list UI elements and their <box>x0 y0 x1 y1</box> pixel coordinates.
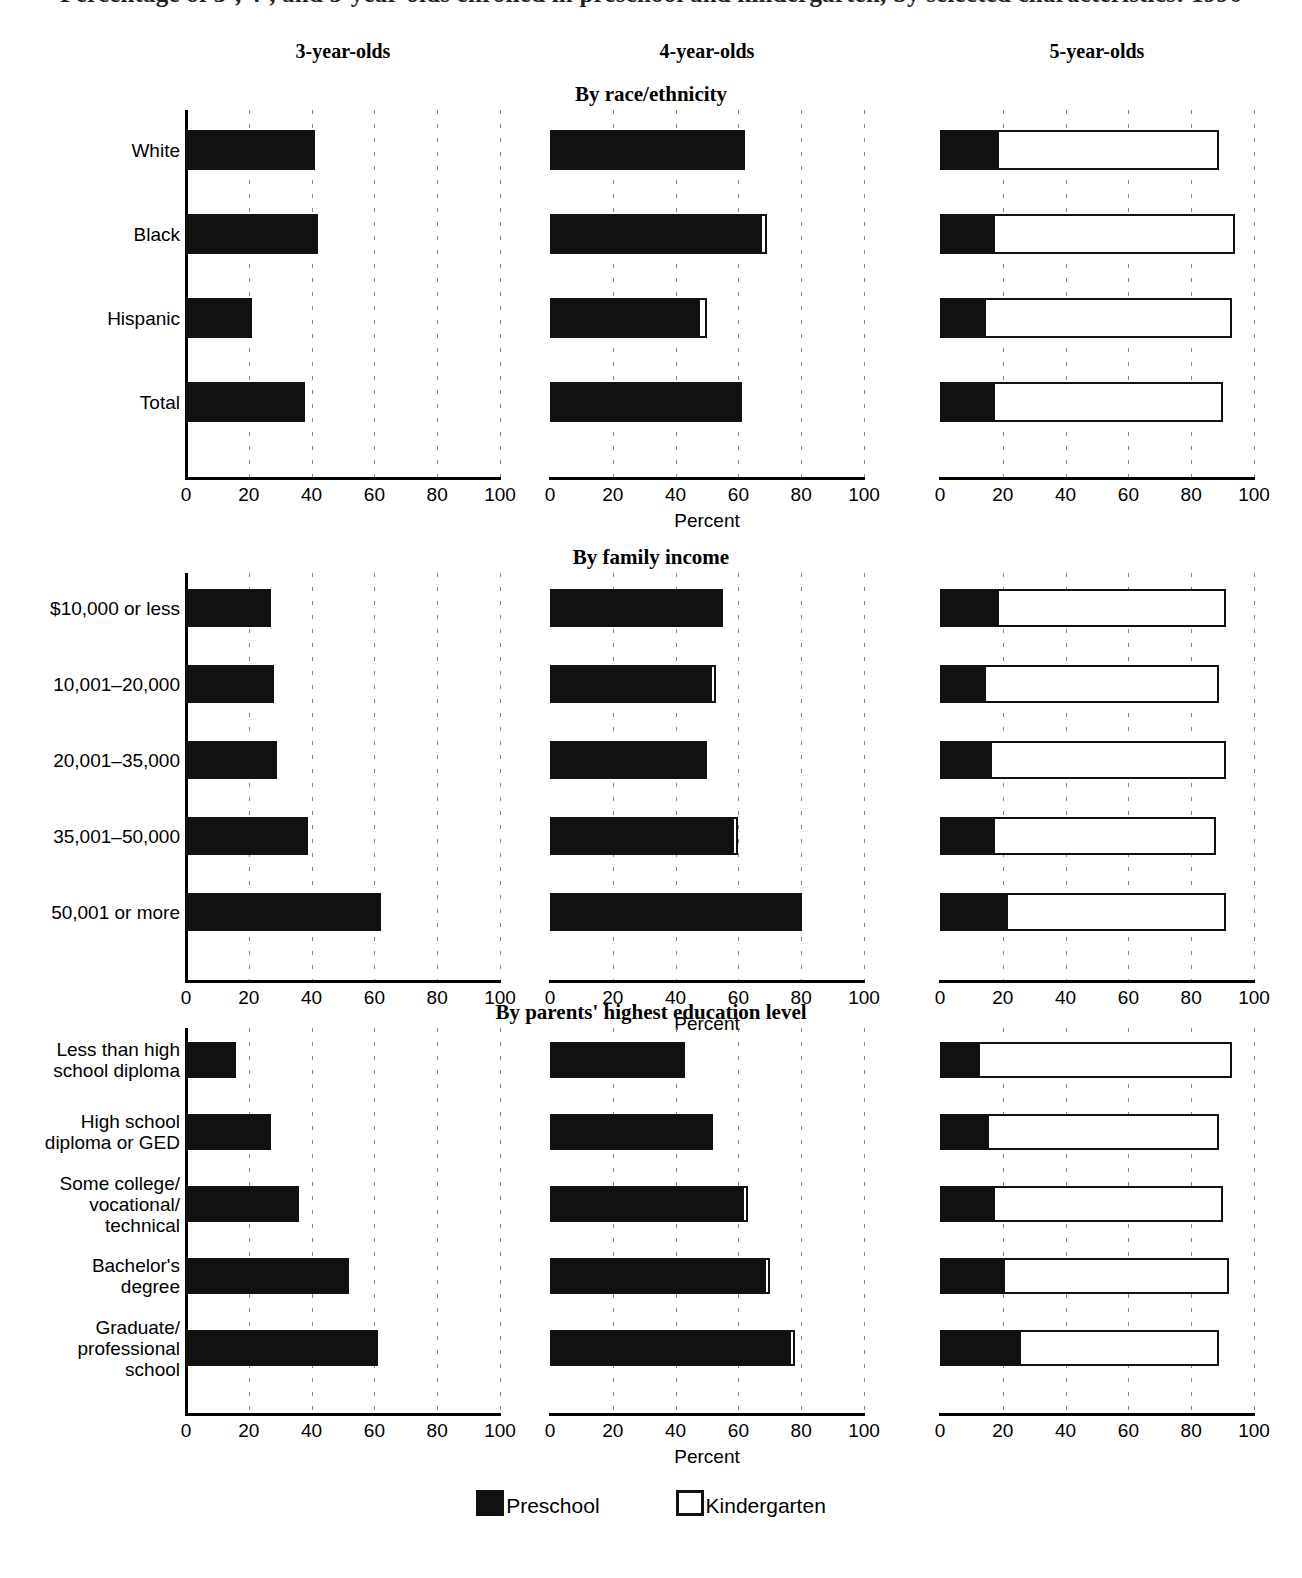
bar-segment-preschool <box>550 665 710 703</box>
bar-segment-preschool <box>940 1114 987 1150</box>
bar-segment-preschool <box>940 817 993 855</box>
x-axis-line <box>549 980 865 983</box>
x-axis-line <box>549 477 865 480</box>
x-axis-tick-label: 80 <box>791 484 812 506</box>
bar-segment-kindergarten <box>984 665 1220 703</box>
panel-4-year-olds: 020406080100Percent <box>550 573 864 983</box>
bar-segment-kindergarten <box>798 893 802 931</box>
bar-row <box>550 1186 864 1222</box>
bar-row <box>940 130 1254 170</box>
bar-segment-kindergarten <box>1019 1330 1220 1366</box>
x-axis-tick-labels: 020406080100 <box>940 484 1254 508</box>
category-label: High school diploma or GED <box>0 1111 180 1153</box>
column-header-5-year-olds: 5-year-olds <box>940 40 1254 63</box>
bar-segment-preschool <box>940 1186 993 1222</box>
bar-row <box>550 665 864 703</box>
x-axis-tick-label: 40 <box>1055 484 1076 506</box>
bar-row <box>940 1042 1254 1078</box>
bar-segment-kindergarten <box>987 1114 1219 1150</box>
x-axis-tick-label: 20 <box>992 484 1013 506</box>
x-axis-line <box>939 980 1255 983</box>
bar-segment-preschool <box>186 214 318 254</box>
bar-segment-preschool <box>186 1186 299 1222</box>
category-label: Hispanic <box>0 308 180 329</box>
x-axis-tick-label: 100 <box>484 1420 516 1442</box>
bar-row <box>186 589 500 627</box>
bar-segment-preschool <box>550 298 698 338</box>
bar-segment-kindergarten <box>789 1330 795 1366</box>
bar-segment-preschool <box>186 1114 271 1150</box>
bar-segment-preschool <box>940 1042 978 1078</box>
plot-area: 020406080100 <box>186 110 500 480</box>
bar-row <box>550 817 864 855</box>
gridline <box>1254 573 1255 983</box>
bar-row <box>940 665 1254 703</box>
gridline <box>1254 110 1255 480</box>
bar-segment-preschool <box>940 1258 1003 1294</box>
bar-segment-preschool <box>186 741 277 779</box>
plot-area: 020406080100Percent <box>550 1028 864 1416</box>
plot-area: 020406080100Percent <box>550 110 864 480</box>
bar-segment-preschool <box>550 1114 713 1150</box>
x-axis-line <box>185 1413 501 1416</box>
category-label: Some college/ vocational/ technical <box>0 1173 180 1236</box>
bar-segment-preschool <box>940 1330 1019 1366</box>
x-axis-tick-labels: 020406080100 <box>940 1420 1254 1444</box>
bar-row <box>940 1186 1254 1222</box>
x-axis-tick-labels: 020406080100 <box>186 1420 500 1444</box>
x-axis-title: Percent <box>550 1446 864 1468</box>
panel-3-year-olds: 020406080100 <box>186 110 500 480</box>
panel-4-year-olds: 020406080100Percent <box>550 110 864 480</box>
bar-row <box>186 741 500 779</box>
bar-row <box>550 741 864 779</box>
bar-segment-kindergarten <box>760 214 766 254</box>
bar-row <box>940 214 1254 254</box>
gridline <box>864 573 865 983</box>
bar-row <box>940 1330 1254 1366</box>
legend-item[interactable]: Kindergarten <box>676 1490 826 1518</box>
bar-segment-kindergarten <box>742 1186 748 1222</box>
bar-segment-preschool <box>940 741 990 779</box>
bar-row <box>940 1258 1254 1294</box>
x-axis-tick-label: 0 <box>181 484 192 506</box>
bar-segment-preschool <box>550 1186 742 1222</box>
bar-segment-preschool <box>186 893 381 931</box>
x-axis-tick-label: 0 <box>545 1420 556 1442</box>
x-axis-tick-label: 0 <box>181 1420 192 1442</box>
x-axis-tick-label: 100 <box>1238 484 1270 506</box>
column-header-4-year-olds: 4-year-olds <box>550 40 864 63</box>
category-label: 50,001 or more <box>0 902 180 923</box>
x-axis-tick-label: 20 <box>602 484 623 506</box>
gridline <box>1254 1028 1255 1416</box>
bar-row <box>186 1042 500 1078</box>
bar-segment-kindergarten <box>993 817 1216 855</box>
legend-item[interactable]: Preschool <box>476 1490 599 1518</box>
gridline <box>500 110 501 480</box>
bar-row <box>550 589 864 627</box>
x-axis-line <box>185 980 501 983</box>
bar-row <box>186 1186 500 1222</box>
bar-segment-preschool <box>550 741 707 779</box>
chart-legend: PreschoolKindergarten <box>0 1490 1302 1518</box>
bar-row <box>186 665 500 703</box>
bar-segment-preschool <box>550 130 745 170</box>
bar-segment-preschool <box>550 214 760 254</box>
bar-row <box>550 1330 864 1366</box>
bar-segment-kindergarten <box>1003 1258 1229 1294</box>
x-axis-title: Percent <box>550 510 864 532</box>
category-label: Total <box>0 392 180 413</box>
bar-segment-preschool <box>940 589 997 627</box>
x-axis-tick-label: 40 <box>665 1420 686 1442</box>
page-title: Percentage of 3-, 4-, and 5-year-olds en… <box>0 0 1302 8</box>
bar-row <box>550 382 864 422</box>
bar-segment-kindergarten <box>997 130 1220 170</box>
legend-swatch-preschool <box>476 1490 504 1516</box>
bar-segment-kindergarten <box>698 298 707 338</box>
section-title: By family income <box>0 545 1302 570</box>
panel-5-year-olds: 020406080100 <box>940 110 1254 480</box>
column-header-3-year-olds: 3-year-olds <box>186 40 500 63</box>
bar-row <box>186 298 500 338</box>
bar-segment-kindergarten <box>1006 893 1226 931</box>
bar-segment-kindergarten <box>738 382 742 422</box>
bar-row <box>550 298 864 338</box>
